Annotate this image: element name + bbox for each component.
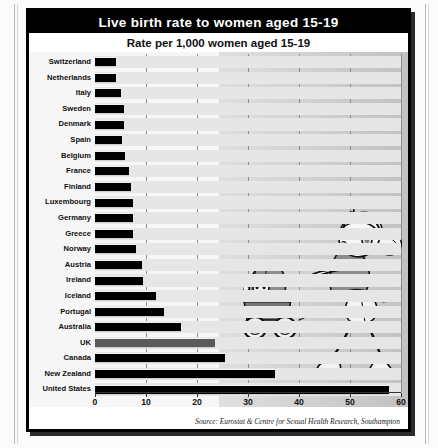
bar-label-canada: Canada [29,352,91,364]
bar-label-netherlands: Netherlands [29,72,91,84]
bar-track [95,196,401,208]
bar-finland [95,182,131,192]
chart-subtitle: Rate per 1,000 women aged 15-19 [29,34,408,51]
source-note: Source: Eurostat & Centre for Sexual Hea… [29,417,400,426]
bar-spain [95,135,122,145]
bar-row: New Zealand [29,368,408,384]
bar-track [95,228,401,240]
bar-label-spain: Spain [29,134,91,146]
bar-luxembourg [95,198,133,208]
bar-row: UK [29,337,408,353]
bar-track [95,134,401,146]
bar-row: Iceland [29,290,408,306]
bar-austria [95,260,142,270]
bar-greece [95,229,133,239]
bar-label-germany: Germany [29,212,91,224]
bar-label-luxembourg: Luxembourg [29,196,91,208]
tick-label-0: 0 [93,397,98,407]
bar-canada [95,353,225,363]
bar-row: Belgium [29,150,408,166]
bar-row: Ireland [29,274,408,290]
page-title: Live birth rate to women aged 15-19 [98,15,338,30]
bar-portugal [95,307,164,317]
tick-label-60: 60 [396,397,406,407]
bar-sweden [95,104,124,114]
bar-track [95,212,401,224]
bar-label-austria: Austria [29,259,91,271]
bar-label-australia: Australia [29,321,91,333]
bar-row: Italy [29,87,408,103]
bar-denmark [95,120,124,130]
bar-label-new-zealand: New Zealand [29,368,91,380]
bar-belgium [95,151,125,161]
column-rule-right [425,4,426,444]
bar-row: Greece [29,228,408,244]
bar-label-france: France [29,165,91,177]
tick-label-40: 40 [294,397,304,407]
screenshot-root: Live birth rate to women aged 15-19 Rate… [0,0,438,448]
bar-label-uk: UK [29,337,91,349]
bar-row: France [29,165,408,181]
bar-iceland [95,291,156,301]
bar-row: Norway [29,243,408,259]
bar-track [95,243,401,255]
bar-italy [95,88,121,98]
bar-track [95,181,401,193]
bar-row: Spain [29,134,408,150]
tick-label-10: 10 [141,397,151,407]
bar-norway [95,244,136,254]
chart-frame: Live birth rate to women aged 15-19 Rate… [26,8,411,432]
bar-label-iceland: Iceland [29,290,91,302]
bar-track [95,118,401,130]
bar-netherlands [95,73,116,83]
bar-label-switzerland: Switzerland [29,56,91,68]
bar-label-greece: Greece [29,228,91,240]
bar-label-denmark: Denmark [29,118,91,130]
bar-uk [95,338,215,348]
chart-title-bar: Live birth rate to women aged 15-19 [29,11,408,33]
bar-row: Luxembourg [29,196,408,212]
bar-label-ireland: Ireland [29,274,91,286]
tick-label-50: 50 [345,397,355,407]
bar-track [95,150,401,162]
column-rule-left-secondary [17,4,18,444]
bar-row: Switzerland [29,56,408,72]
bar-row: Sweden [29,103,408,119]
bar-ireland [95,276,143,286]
bar-row: Canada [29,352,408,368]
bar-label-belgium: Belgium [29,150,91,162]
bar-row: Portugal [29,306,408,322]
bar-track [95,56,401,68]
bar-row: Austria [29,259,408,275]
tick-label-30: 30 [243,397,253,407]
bar-label-sweden: Sweden [29,103,91,115]
bar-track [95,103,401,115]
bar-track [95,87,401,99]
bar-switzerland [95,57,116,67]
bar-rows: SwitzerlandNetherlandsItalySwedenDenmark… [29,56,408,399]
bar-row: Denmark [29,118,408,134]
bar-row: Germany [29,212,408,228]
bar-new-zealand [95,369,275,379]
bar-germany [95,213,133,223]
bar-label-italy: Italy [29,87,91,99]
bar-label-portugal: Portugal [29,306,91,318]
bar-label-united-states: United States [29,383,91,395]
bar-row: Australia [29,321,408,337]
bar-australia [95,322,181,332]
subtitle-text: Rate per 1,000 women aged 15-19 [127,37,310,49]
plot-area: SwitzerlandNetherlandsItalySwedenDenmark… [29,52,408,407]
column-rule-left [14,4,15,444]
bar-row: Netherlands [29,72,408,88]
bar-row: Finland [29,181,408,197]
bar-track [95,165,401,177]
bar-track [95,72,401,84]
column-rule-right-secondary [428,4,429,444]
bar-label-finland: Finland [29,181,91,193]
tick-label-20: 20 [192,397,202,407]
bar-france [95,166,129,176]
bar-label-norway: Norway [29,243,91,255]
